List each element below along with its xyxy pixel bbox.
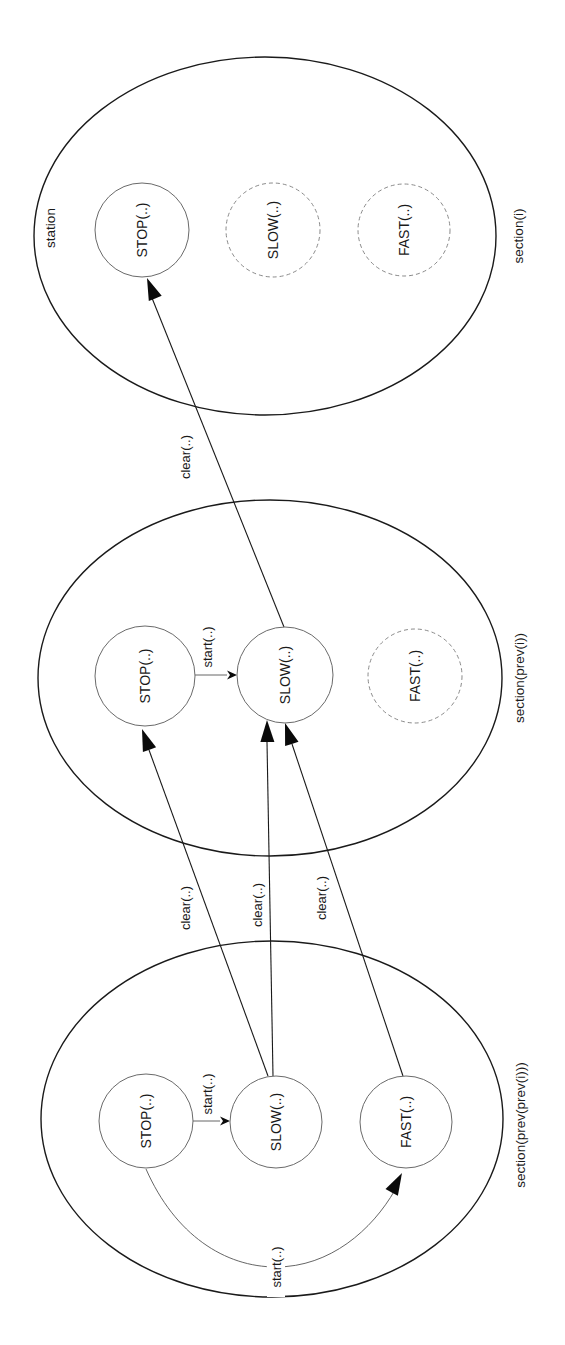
arrowhead-icon	[386, 1173, 403, 1196]
edge-label: clear(..)	[178, 886, 193, 930]
edge-line	[292, 744, 403, 1076]
state-label: FAST(..)	[407, 650, 423, 702]
edge-label: start(..)	[200, 626, 215, 667]
state-node-top-fast: FAST(..)	[358, 184, 450, 276]
arrowhead-icon	[285, 723, 299, 746]
state-label: STOP(..)	[138, 1094, 154, 1149]
edge-label: start(..)	[269, 1246, 284, 1287]
edge-label: clear(..)	[178, 435, 193, 479]
arrowhead-icon	[260, 720, 274, 742]
edge-clear-bot-fast-to-mid-slow	[285, 723, 403, 1076]
edge-label: clear(..)	[250, 883, 265, 927]
state-label: SLOW(..)	[268, 1093, 284, 1151]
edge-start-bot-stop-to-bot-slow	[193, 1117, 230, 1126]
arrowhead-icon	[147, 278, 162, 301]
state-node-mid-slow: SLOW(..)	[237, 627, 333, 723]
state-node-top-slow: SLOW(..)	[226, 183, 320, 277]
edge-clear-mid-slow-to-top-stop	[147, 278, 284, 627]
section-label: section(prev(prev(i)))	[513, 1062, 528, 1187]
state-node-top-stop: STOP(..)	[95, 183, 189, 277]
edge-line	[152, 298, 284, 627]
edge-start-mid-stop-to-mid-slow	[195, 671, 237, 680]
state-diagram: STOP(..)SLOW(..)FAST(..)STOP(..)SLOW(..)…	[0, 0, 565, 1345]
arrowhead-icon	[142, 729, 156, 752]
edge-line	[267, 742, 273, 1076]
arrowhead-icon	[227, 671, 237, 680]
state-label: SLOW(..)	[265, 201, 281, 259]
state-label: SLOW(..)	[277, 646, 293, 704]
edge-label: clear(..)	[314, 876, 329, 920]
edge-label: start(..)	[200, 1073, 215, 1114]
station-label: station	[43, 208, 58, 248]
section-label: section(prev(i))	[512, 633, 527, 723]
arrowhead-icon	[220, 1117, 230, 1126]
state-node-mid-stop: STOP(..)	[95, 626, 195, 726]
state-label: FAST(..)	[398, 1096, 414, 1148]
section-label: section(i)	[511, 209, 526, 264]
state-nodes: STOP(..)SLOW(..)FAST(..)STOP(..)SLOW(..)…	[95, 183, 462, 1168]
state-label: STOP(..)	[134, 203, 150, 258]
section-ellipse-section-prev-i	[38, 500, 502, 856]
diagram-labels: section(i)stationsection(prev(i))section…	[43, 208, 528, 1297]
state-label: STOP(..)	[137, 649, 153, 704]
state-label: FAST(..)	[396, 204, 412, 256]
state-node-mid-fast: FAST(..)	[368, 629, 462, 723]
state-node-bot-fast: FAST(..)	[360, 1076, 452, 1168]
state-node-bot-stop: STOP(..)	[99, 1074, 193, 1168]
state-node-bot-slow: SLOW(..)	[230, 1076, 322, 1168]
